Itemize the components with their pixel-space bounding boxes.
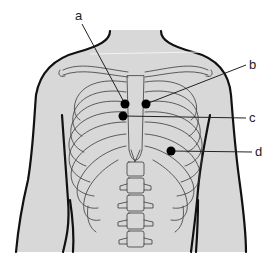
- marker-b: [142, 100, 151, 109]
- torso-silhouette: [16, 30, 246, 252]
- marker-d: [167, 147, 176, 156]
- chest-diagram: a b c d: [0, 0, 275, 265]
- label-a: a: [75, 8, 83, 23]
- label-c: c: [249, 110, 256, 125]
- marker-a: [121, 100, 130, 109]
- label-b: b: [249, 57, 256, 72]
- marker-c: [119, 112, 128, 121]
- label-d: d: [255, 144, 262, 159]
